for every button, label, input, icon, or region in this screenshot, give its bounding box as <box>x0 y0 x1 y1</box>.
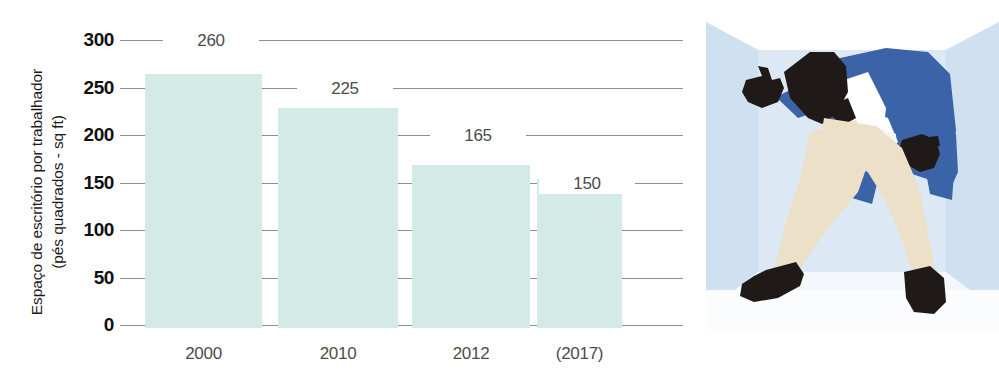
y-tick-mark-50 <box>120 278 142 279</box>
bar-value-2012: 165 <box>430 126 526 146</box>
y-tick-label-300: 300 <box>58 29 114 51</box>
y-tick-label-100: 100 <box>58 219 114 241</box>
bar-2000[interactable] <box>145 74 262 328</box>
bar-value-2000: 260 <box>163 31 259 51</box>
bar-2012[interactable] <box>412 165 530 328</box>
y-tick-mark-100 <box>120 230 142 231</box>
x-label-2010: 2010 <box>278 344 398 364</box>
y-tick-mark-0 <box>120 325 142 326</box>
y-tick-mark-300 <box>120 40 142 41</box>
bar-value-2010: 225 <box>297 79 393 99</box>
bar-chart: Espaço de escritório por trabalhador (pé… <box>0 0 700 380</box>
y-tick-label-150: 150 <box>58 172 114 194</box>
y-tick-label-200: 200 <box>58 124 114 146</box>
y-tick-mark-250 <box>120 88 142 89</box>
y-tick-label-250: 250 <box>58 77 114 99</box>
bar-2017[interactable] <box>537 179 622 328</box>
y-tick-label-50: 50 <box>58 267 114 289</box>
y-tick-label-0: 0 <box>58 314 114 336</box>
x-label-2000: 2000 <box>145 344 262 364</box>
x-label-2012: 2012 <box>412 344 530 364</box>
y-tick-mark-200 <box>120 135 142 136</box>
bar-value-2017: 150 <box>539 174 635 194</box>
bar-2010[interactable] <box>278 108 398 328</box>
cramped-worker-illustration <box>706 22 999 330</box>
y-tick-mark-150 <box>120 183 142 184</box>
figure-root: Espaço de escritório por trabalhador (pé… <box>0 0 999 380</box>
x-label-2017: (2017) <box>532 344 627 364</box>
